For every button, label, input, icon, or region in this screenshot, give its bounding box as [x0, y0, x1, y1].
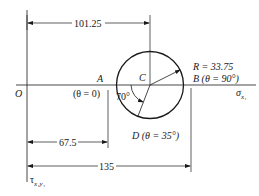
sigma-subscript: x₁ [240, 93, 247, 101]
dim-101-label: 101.25 [74, 18, 102, 29]
tau-axis-label: τx₁y₁ [30, 174, 45, 188]
point-A-theta: (θ = 0) [73, 88, 100, 100]
origin-label: O [15, 88, 22, 99]
tau-subscript: x₁y₁ [33, 180, 45, 188]
dim-67-label: 67.5 [59, 137, 77, 148]
radius-label: R = 33.75 [192, 61, 233, 72]
radius-arrow [150, 70, 180, 85]
angle-label: 70° [116, 91, 130, 102]
dim-135-label: 135 [99, 161, 114, 172]
sigma-axis-label: σx₁ [236, 87, 246, 101]
mohr-circle-diagram: 101.25 67.5 135 O A (θ = 0) C R = 33.75 … [0, 0, 259, 196]
point-D-label: D (θ = 35°) [131, 130, 180, 142]
point-A-label: A [96, 73, 104, 84]
center-label: C [139, 72, 146, 83]
angle-arc [131, 85, 143, 102]
point-B-label: B (θ = 90°) [193, 73, 240, 85]
